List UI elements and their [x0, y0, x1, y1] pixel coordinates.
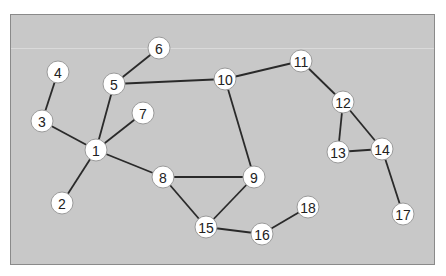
node-label: 17	[395, 207, 411, 223]
node-1: 1	[85, 139, 107, 161]
node-13: 13	[327, 141, 349, 163]
edge-10-11	[225, 61, 301, 79]
node-label: 1	[92, 143, 100, 159]
node-3: 3	[31, 110, 53, 132]
node-10: 10	[214, 68, 236, 90]
node-4: 4	[47, 61, 69, 83]
nodes-layer: 123456789101112131415161718	[31, 37, 414, 245]
node-15: 15	[195, 216, 217, 238]
node-14: 14	[371, 138, 393, 160]
node-5: 5	[103, 73, 125, 95]
node-label: 6	[155, 41, 163, 57]
node-18: 18	[297, 196, 319, 218]
node-label: 13	[330, 145, 346, 161]
node-label: 8	[159, 170, 167, 186]
node-11: 11	[290, 50, 312, 72]
node-label: 15	[198, 220, 214, 236]
node-label: 12	[335, 95, 351, 111]
node-6: 6	[148, 37, 170, 59]
node-7: 7	[132, 102, 154, 124]
node-label: 3	[38, 114, 46, 130]
node-label: 10	[217, 72, 233, 88]
node-17: 17	[392, 203, 414, 225]
node-12: 12	[332, 91, 354, 113]
node-label: 5	[110, 77, 118, 93]
node-2: 2	[51, 192, 73, 214]
graph-diagram: 123456789101112131415161718	[0, 0, 446, 276]
edge-10-9	[225, 79, 254, 177]
node-16: 16	[251, 223, 273, 245]
node-label: 7	[139, 106, 147, 122]
node-label: 16	[254, 227, 270, 243]
node-label: 9	[250, 170, 258, 186]
node-label: 11	[294, 54, 309, 70]
node-9: 9	[243, 166, 265, 188]
node-8: 8	[152, 166, 174, 188]
node-label: 4	[54, 65, 62, 81]
node-label: 2	[58, 196, 66, 212]
edge-5-10	[114, 79, 225, 84]
node-label: 14	[374, 142, 390, 158]
node-label: 18	[300, 200, 316, 216]
